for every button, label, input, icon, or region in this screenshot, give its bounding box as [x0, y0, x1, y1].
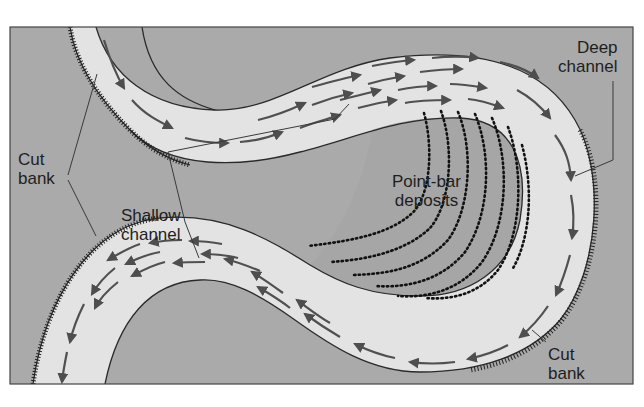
label-line: bank — [548, 364, 585, 383]
label-line: deposits — [392, 191, 461, 210]
label-line: channel — [121, 225, 181, 244]
label-line: Deep — [558, 38, 618, 57]
label-line: Cut — [18, 150, 55, 169]
label-deep-channel: Deep channel — [558, 38, 618, 76]
label-cut-bank-lower: Cut bank — [548, 345, 585, 383]
label-line: channel — [558, 57, 618, 76]
label-line: bank — [18, 169, 55, 188]
label-line: Shallow — [121, 206, 181, 225]
label-line: Point-bar — [392, 172, 461, 191]
label-point-bar-deposits: Point-bar deposits — [392, 172, 461, 210]
label-line: Cut — [548, 345, 585, 364]
label-cut-bank-upper: Cut bank — [18, 150, 55, 188]
label-shallow-channel: Shallow channel — [121, 206, 181, 244]
